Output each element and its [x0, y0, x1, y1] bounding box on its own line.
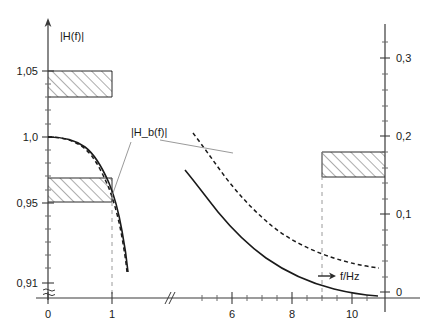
left-tick-label: 1,05 — [17, 65, 38, 77]
x-tick-labels: 0 1 6 8 10 — [45, 308, 358, 320]
passband-curve-solid — [48, 137, 128, 272]
x-tick-label: 1 — [109, 308, 115, 320]
left-axis-title: |H(f)| — [60, 30, 84, 42]
stopband-tolerance — [322, 152, 385, 177]
x-tick-label: 8 — [289, 308, 295, 320]
left-axis — [42, 18, 55, 300]
right-tick-labels: 0,3 0,2 0,1 0 — [396, 52, 411, 298]
vertical-markers — [112, 152, 322, 298]
x-axis-arrow — [318, 273, 336, 280]
x-tick-label: 6 — [229, 308, 235, 320]
right-tick-label: 0 — [396, 286, 402, 298]
left-tick-label: 0,91 — [17, 277, 38, 289]
tolerance-bands — [48, 71, 385, 202]
x-tick-label: 10 — [346, 308, 358, 320]
passband-curve-dashed — [48, 137, 127, 272]
filter-magnitude-response-chart: |H(f)| |H_b(f)| f/Hz 1,05 1,0 0,95 0,91 … — [0, 0, 432, 330]
curve-annotation-main: |H_b(f)| — [131, 126, 167, 138]
x-axis — [36, 273, 420, 304]
figure-container: |H(f)| |H_b(f)| f/Hz 1,05 1,0 0,95 0,91 … — [0, 0, 432, 330]
passband-lower-tolerance — [48, 178, 112, 202]
left-tick-label: 1,0 — [23, 131, 38, 143]
right-tick-label: 0,3 — [396, 52, 411, 64]
x-tick-label: 0 — [45, 308, 51, 320]
passband-upper-tolerance — [48, 71, 112, 97]
left-tick-labels: 1,05 1,0 0,95 0,91 — [17, 65, 38, 289]
annotation-leaders — [112, 140, 233, 196]
left-tick-label: 0,95 — [17, 197, 38, 209]
right-tick-label: 0,2 — [396, 130, 411, 142]
x-axis-title: f/Hz — [340, 270, 360, 282]
right-tick-label: 0,1 — [396, 208, 411, 220]
curve-annotation-label: |H_b(f)| — [131, 126, 167, 138]
y-axis-break — [43, 289, 55, 296]
